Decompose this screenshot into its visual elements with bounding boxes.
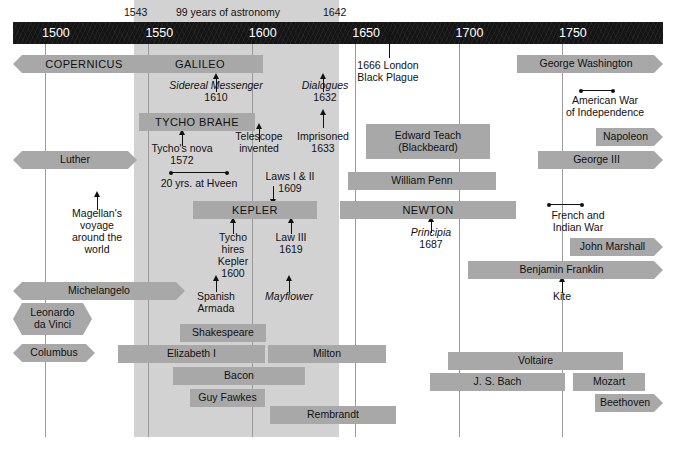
timeline-bar[interactable]: Leonardo da Vinci [13,303,92,335]
annotation-label: Magellan's voyage around the world [62,208,132,256]
pointer-arrow-up [389,36,390,58]
american-war-span [580,90,614,91]
annotation-label: Spanish Armada [190,291,242,315]
axis-tick-1500: 1500 [42,26,70,40]
timeline-bar[interactable]: KEPLER [193,201,317,219]
annotation-label: American War of Independence [550,95,660,119]
annotation-label: Principia1687 [403,227,459,251]
annotation-label: Tycho's nova 1572 [146,143,218,167]
timeline-bar[interactable]: GALILEO [137,55,263,73]
timeline-bar[interactable]: Shakespeare [180,324,266,342]
timeline-bar[interactable]: Milton [268,345,386,363]
timeline-bar[interactable]: TYCHO BRAHE [139,113,255,131]
annotation-label: French and Indian War [540,210,616,234]
band-start-year: 1543 [124,6,147,18]
annotation-label: Telescope invented [229,131,289,155]
timeline-bar[interactable]: Benjamin Franklin [468,261,663,279]
hveen-span [170,172,228,173]
timeline-bar[interactable]: Luther [13,151,137,169]
annotation-label: Kite [545,291,579,303]
annotation-label: 1666 London Black Plague [350,60,426,84]
annotation-label: Tycho hires Kepler 1600 [208,232,258,280]
timeline-bar[interactable]: Mozart [573,373,645,391]
timeline-infographic: 1543 99 years of astronomy 1642 15001550… [0,0,676,449]
timeline-bar[interactable]: George Washington [517,55,663,73]
axis-tick-1550: 1550 [145,26,173,40]
timeline-bar[interactable]: Napoleon [596,128,663,146]
timeline-bar[interactable]: Guy Fawkes [190,389,265,407]
timeline-bar[interactable]: Michelangelo [13,282,185,300]
annotation-label: Law III 1619 [266,232,316,256]
timeline-bar[interactable]: Rembrandt [270,406,396,424]
timeline-bar[interactable]: William Penn [348,172,496,190]
annotation-label: Dialogues1632 [292,80,358,104]
axis-tick-1750: 1750 [559,26,587,40]
band-end-year: 1642 [323,6,346,18]
annotation-label: Imprisoned 1633 [292,131,354,155]
french-indian-war-span [548,204,583,205]
timeline-bar[interactable]: Bacon [173,367,305,385]
timeline-bar[interactable]: COPERNICUS [13,55,155,73]
timeline-bar[interactable]: NEWTON [340,201,516,219]
gridline-1550 [148,44,149,437]
band-title: 99 years of astronomy [176,6,280,18]
timeline-bar[interactable]: Columbus [13,344,95,362]
annotation-label: 20 yrs. at Hveen [153,178,245,190]
pointer-arrow-up [323,114,324,128]
timeline-bar[interactable]: Voltaire [448,352,623,370]
timeline-bar[interactable]: Beethoven [595,394,663,412]
timeline-bar[interactable]: Edward Teach (Blackbeard) [366,124,490,159]
annotation-label: Sidereal Messenger1610 [168,80,264,104]
axis-tick-1700: 1700 [456,26,484,40]
gridline-1500 [45,44,46,437]
annotation-label: Mayflower [258,291,320,303]
axis-tick-1650: 1650 [352,26,380,40]
timeline-bar[interactable]: George III [538,151,663,169]
annotation-label: Laws I & II 1609 [256,171,324,195]
axis-tick-1600: 1600 [249,26,277,40]
timeline-bar[interactable]: Elizabeth I [118,345,265,363]
timeline-bar[interactable]: J. S. Bach [430,373,565,391]
timeline-bar[interactable]: John Marshall [570,238,663,256]
